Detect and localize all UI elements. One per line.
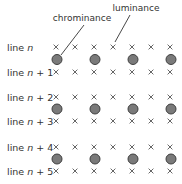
luminance-sample-icon [73, 70, 78, 75]
luminance-sample-icon [73, 95, 78, 100]
luminance-sample-icon [130, 95, 135, 100]
row-label: line n [7, 42, 33, 53]
luminance-sample-icon [54, 119, 59, 124]
luminance-sample-icon [111, 95, 116, 100]
luminance-samples [54, 45, 173, 174]
luminance-sample-icon [92, 70, 97, 75]
chrominance-sample-icon [52, 104, 62, 114]
luminance-sample-icon [111, 119, 116, 124]
chrominance-sample-icon [52, 55, 62, 65]
luminance-sample-icon [130, 169, 135, 174]
luminance-sample-icon [149, 119, 154, 124]
luminance-sample-icon [168, 70, 173, 75]
luminance-sample-icon [168, 95, 173, 100]
luminance-sample-icon [54, 169, 59, 174]
luminance-sample-icon [54, 145, 59, 150]
row-labels: line nline n + 1line n + 2line n + 3line… [7, 42, 53, 177]
luminance-sample-icon [92, 145, 97, 150]
chrominance-sample-icon [166, 55, 176, 65]
luminance-sample-icon [92, 95, 97, 100]
luminance-sample-icon [111, 70, 116, 75]
row-label: line n + 2 [7, 92, 53, 103]
luminance-sample-icon [130, 45, 135, 50]
luminance-sample-icon [149, 70, 154, 75]
row-label: line n + 1 [7, 67, 53, 78]
chrominance-sample-icon [90, 55, 100, 65]
luminance-sample-icon [168, 119, 173, 124]
chrominance-leader-line [61, 25, 84, 55]
luminance-leader-line [115, 15, 130, 42]
luminance-sample-icon [73, 145, 78, 150]
chrominance-sample-icon [166, 154, 176, 164]
luminance-sample-icon [54, 95, 59, 100]
luminance-sample-icon [130, 119, 135, 124]
chrominance-sample-icon [128, 154, 138, 164]
luminance-sample-icon [149, 169, 154, 174]
luminance-label: luminance [113, 3, 160, 13]
chrominance-sample-icon [90, 154, 100, 164]
luminance-sample-icon [92, 169, 97, 174]
chrominance-sample-icon [166, 104, 176, 114]
luminance-sample-icon [54, 70, 59, 75]
row-label: line n + 4 [7, 142, 53, 153]
luminance-sample-icon [92, 45, 97, 50]
luminance-sample-icon [168, 169, 173, 174]
chrominance-sample-icon [52, 154, 62, 164]
luminance-sample-icon [111, 169, 116, 174]
chroma-subsampling-diagram: chrominance luminance line nline n + 1li… [0, 0, 182, 184]
luminance-sample-icon [130, 145, 135, 150]
chrominance-sample-icon [128, 55, 138, 65]
luminance-sample-icon [168, 45, 173, 50]
chrominance-label: chrominance [53, 13, 112, 23]
luminance-sample-icon [149, 95, 154, 100]
luminance-sample-icon [130, 70, 135, 75]
row-label: line n + 5 [7, 166, 53, 177]
luminance-sample-icon [149, 45, 154, 50]
luminance-sample-icon [111, 145, 116, 150]
row-label: line n + 3 [7, 116, 53, 127]
luminance-sample-icon [92, 119, 97, 124]
chrominance-sample-icon [90, 104, 100, 114]
luminance-sample-icon [73, 169, 78, 174]
luminance-sample-icon [111, 45, 116, 50]
chrominance-sample-icon [128, 104, 138, 114]
luminance-sample-icon [73, 45, 78, 50]
luminance-sample-icon [54, 45, 59, 50]
luminance-sample-icon [149, 145, 154, 150]
luminance-sample-icon [168, 145, 173, 150]
luminance-sample-icon [73, 119, 78, 124]
